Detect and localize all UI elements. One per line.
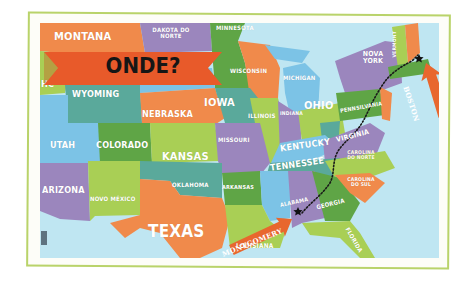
label-nebraska: NEBRASKA (142, 110, 193, 119)
state-missouri (215, 123, 270, 173)
label-colorado: COLORADO (96, 141, 148, 150)
page-title: ONDE? (103, 53, 184, 78)
label-new-york: NOVA YORK (362, 51, 384, 65)
state-florida (302, 221, 375, 258)
label-oklahoma: OKLAHOMA (172, 182, 209, 188)
label-utah: UTAH (50, 141, 75, 150)
label-ohio: OHIO (304, 100, 334, 111)
map-corner-marker (41, 231, 47, 245)
label-michigan: MICHIGAN (283, 75, 316, 81)
label-minnesota: MINNESOTA (216, 25, 254, 31)
label-missouri: MISSOURI (218, 137, 250, 143)
title-banner: ONDE? (44, 47, 222, 87)
label-texas: TEXAS (148, 223, 205, 240)
label-vermont: VERMONT (392, 31, 397, 58)
label-montana: MONTANA (54, 31, 111, 42)
label-south-carolina: CAROLINA DO SUL (346, 177, 376, 187)
label-kansas: KANSAS (162, 151, 209, 162)
label-wisconsin: WISCONSIN (230, 68, 267, 74)
label-wyoming: WYOMING (72, 90, 119, 99)
label-illinois: ILLINOIS (248, 113, 276, 119)
label-north-carolina: CAROLINA DO NORTE (343, 150, 379, 160)
label-arizona: ARIZONA (42, 186, 85, 195)
label-indiana: INDIANA (280, 111, 303, 116)
label-new-mexico: NOVO MÉXICO (90, 196, 135, 202)
label-iowa: IOWA (204, 97, 235, 108)
label-north-dakota: DAKOTA DO NORTE (148, 27, 194, 39)
label-arkansas: ARKANSAS (222, 185, 254, 191)
state-new-mexico (88, 161, 140, 221)
